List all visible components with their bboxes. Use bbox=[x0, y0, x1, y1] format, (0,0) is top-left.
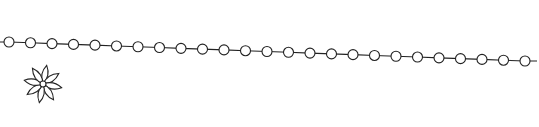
bead-circle bbox=[133, 42, 143, 52]
bead-circle bbox=[176, 43, 186, 53]
flower-center bbox=[40, 81, 46, 87]
bead-circle bbox=[155, 43, 165, 53]
flower-icon bbox=[24, 65, 62, 103]
bead-circle bbox=[434, 53, 444, 63]
bead-circle bbox=[112, 41, 122, 51]
bead-circle bbox=[413, 52, 423, 62]
chain-and-flower-illustration bbox=[0, 0, 539, 127]
bead-circle bbox=[47, 39, 57, 49]
bead-circle bbox=[520, 56, 530, 66]
bead-circle bbox=[69, 39, 79, 49]
bead-circle bbox=[198, 44, 208, 54]
bead-circle bbox=[456, 54, 466, 64]
bead-circle bbox=[477, 54, 487, 64]
bead-circle bbox=[391, 51, 401, 61]
bead-circle bbox=[90, 40, 100, 50]
bead-circle bbox=[305, 48, 315, 58]
bead-circle bbox=[370, 50, 380, 60]
bead-chain bbox=[0, 37, 537, 66]
bead-circle bbox=[241, 46, 251, 56]
bead-circle bbox=[26, 38, 36, 48]
bead-circle bbox=[219, 45, 229, 55]
bead-circle bbox=[262, 47, 272, 57]
bead-circle bbox=[4, 37, 14, 47]
bead-circle bbox=[327, 49, 337, 59]
bead-circle bbox=[348, 50, 358, 60]
bead-circle bbox=[284, 47, 294, 57]
bead-circle bbox=[499, 55, 509, 65]
